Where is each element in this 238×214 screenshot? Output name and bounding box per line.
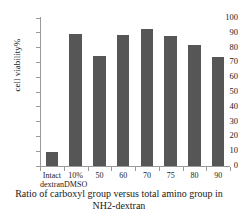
x-tick-label: 10%DMSO bbox=[64, 172, 88, 189]
x-tick-mark bbox=[135, 167, 136, 171]
x-tick-mark bbox=[159, 167, 160, 171]
x-tick-mark bbox=[88, 167, 89, 171]
bar bbox=[141, 29, 153, 166]
x-tick-label-line: 10% bbox=[68, 171, 83, 180]
x-axis-title-line1: Ratio of carboxyl group versus total ami… bbox=[15, 188, 187, 199]
bar bbox=[164, 36, 176, 166]
bar bbox=[93, 56, 105, 166]
x-tick-label: 50 bbox=[88, 172, 112, 181]
x-tick-label-line: 60 bbox=[119, 171, 127, 180]
x-tick-mark bbox=[183, 167, 184, 171]
x-tick-label: 80 bbox=[183, 172, 207, 181]
x-tick-label-line: 50 bbox=[95, 171, 103, 180]
x-tick-mark bbox=[40, 167, 41, 171]
y-axis-title: cell viability% bbox=[12, 17, 22, 113]
x-tick-label-line: 75 bbox=[167, 171, 175, 180]
bar bbox=[212, 57, 224, 166]
x-tick-mark bbox=[230, 167, 231, 171]
x-tick-mark bbox=[64, 167, 65, 171]
x-tick-mark bbox=[111, 167, 112, 171]
x-tick-label: 70 bbox=[135, 172, 159, 181]
bar bbox=[69, 34, 81, 166]
bar bbox=[46, 152, 58, 166]
x-tick-label: 90 bbox=[206, 172, 230, 181]
bar bbox=[188, 45, 200, 166]
x-tick-label: 75 bbox=[159, 172, 183, 181]
plot-area bbox=[40, 18, 230, 166]
bar bbox=[117, 35, 129, 166]
x-tick-label: 60 bbox=[111, 172, 135, 181]
x-tick-label-line: 80 bbox=[190, 171, 198, 180]
x-axis-title: Ratio of carboxyl group versus total ami… bbox=[8, 188, 230, 211]
x-tick-label-line: Intact bbox=[43, 171, 61, 180]
x-tick-mark bbox=[206, 167, 207, 171]
x-tick-label: Intactdextran bbox=[40, 172, 64, 189]
bar-chart: cell viability% 1009080706050403020100 I… bbox=[0, 0, 238, 214]
x-tick-label-line: 70 bbox=[143, 171, 151, 180]
x-tick-label-line: 90 bbox=[214, 171, 222, 180]
